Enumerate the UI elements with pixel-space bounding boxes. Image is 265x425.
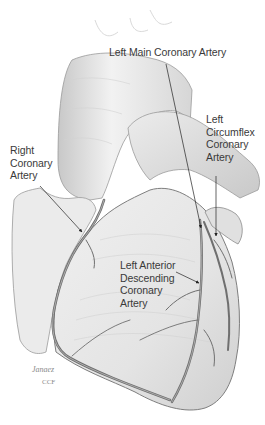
heart-diagram: Left Main Coronary Artery Left Circumfle… <box>0 0 265 425</box>
label-left-anterior-descending-coronary-artery: Left Anterior Descending Coronary Artery <box>120 259 175 309</box>
artist-signature: Janaez <box>32 366 54 374</box>
label-left-main-coronary-artery: Left Main Coronary Artery <box>109 46 226 59</box>
heart-illustration <box>0 0 265 425</box>
label-right-coronary-artery: Right Coronary Artery <box>10 144 52 182</box>
great-vessels <box>95 10 172 36</box>
label-left-circumflex-coronary-artery: Left Circumflex Coronary Artery <box>206 113 255 163</box>
artist-org: CCF <box>42 378 55 386</box>
